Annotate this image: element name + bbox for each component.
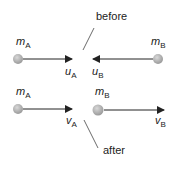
before-pointer [83, 28, 94, 50]
after-scene [13, 104, 164, 148]
mass-b-after-label: mB [95, 86, 110, 100]
before-label: before [96, 11, 127, 22]
velocity-u-a-label: uA [65, 66, 76, 80]
velocity-u-b-label: uB [92, 66, 103, 80]
ball-a-before [13, 54, 23, 64]
ball-b-after [93, 105, 104, 116]
mass-b-before-label: mB [151, 36, 166, 50]
after-label: after [103, 145, 125, 156]
ball-a-after [13, 104, 23, 114]
velocity-v-b-label: vB [155, 115, 166, 129]
mass-a-before-label: mA [16, 36, 31, 50]
mass-a-after-label: mA [16, 86, 31, 100]
ball-b-before [153, 54, 163, 64]
velocity-v-a-label: vA [66, 115, 77, 129]
before-scene [13, 28, 163, 64]
after-pointer [84, 120, 98, 148]
collision-diagram: before after mA mB uA uB mA mB vA vB [0, 0, 177, 171]
